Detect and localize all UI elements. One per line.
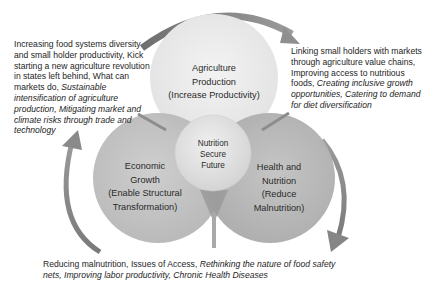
label-line: (Enable Structural: [90, 187, 200, 201]
label-line: Agriculture: [158, 62, 270, 76]
label-line: Future: [175, 160, 251, 171]
label-nutrition-secure-future: Nutrition Secure Future: [175, 138, 251, 171]
note-agriculture-production: Increasing food systems diversity and sm…: [14, 39, 154, 136]
note-normal-text: Reducing malnutrition, Issues of Access,: [43, 259, 200, 269]
label-agriculture-production: Agriculture Production (Increase Product…: [158, 62, 270, 103]
label-line: Growth: [90, 174, 200, 188]
label-line: Nutrition: [175, 138, 251, 149]
label-line: Production: [158, 76, 270, 90]
label-line: (Reduce: [234, 188, 324, 202]
label-line: Secure: [175, 149, 251, 160]
label-line: (Increase Productivity): [158, 89, 270, 103]
label-line: Nutrition: [234, 175, 324, 189]
label-line: Transformation): [90, 201, 200, 215]
note-economic-growth: Reducing malnutrition, Issues of Access,…: [43, 259, 343, 281]
note-health-nutrition: Linking small holders with markets throu…: [291, 46, 427, 111]
label-line: Malnutrition): [234, 202, 324, 216]
